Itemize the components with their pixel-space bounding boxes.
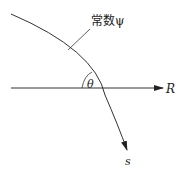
label-leader-line <box>68 29 90 50</box>
curve-label: 常数ψ <box>91 13 124 28</box>
diagram-canvas: 常数ψ θ R s <box>0 0 184 174</box>
angle-label: θ <box>87 78 94 91</box>
s-direction-label: s <box>125 155 131 168</box>
r-axis-label: R <box>165 82 175 96</box>
constant-psi-curve <box>11 14 127 150</box>
